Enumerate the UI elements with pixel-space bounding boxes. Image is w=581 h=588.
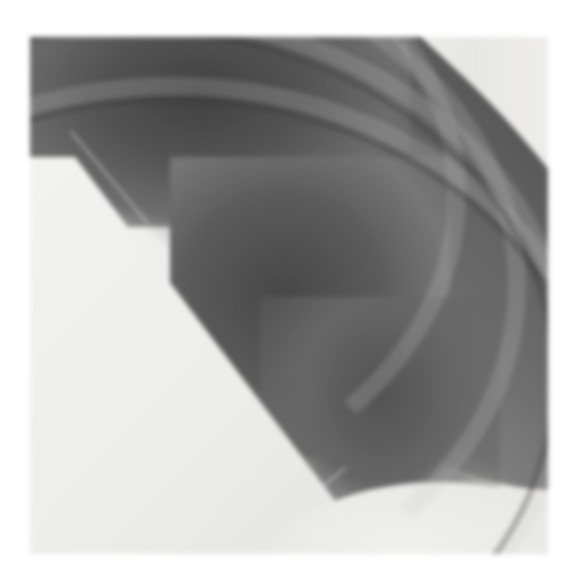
xray-image <box>30 37 548 554</box>
